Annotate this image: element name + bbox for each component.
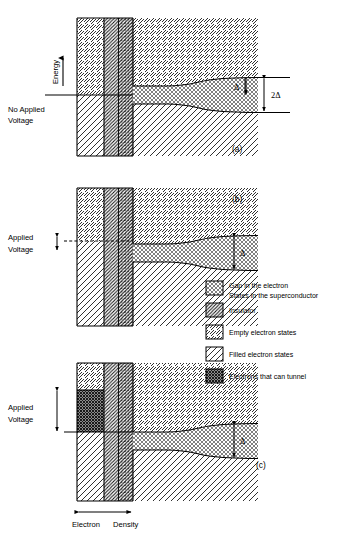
panel-b-left-label-line2: Voltage bbox=[8, 245, 33, 254]
panel-c-left-label-line1: Applied bbox=[8, 403, 33, 412]
legend-swatch-gap-in-electron-states bbox=[206, 281, 223, 295]
panel-b-insulator-left bbox=[104, 188, 119, 326]
panel-a-left-empty-states bbox=[77, 18, 104, 95]
panel-b-left-label-line1: Applied bbox=[8, 233, 33, 242]
panel-a-left-label-line1: No Applied bbox=[8, 105, 45, 114]
panel-b-left-empty-states bbox=[77, 188, 104, 241]
legend-label-gap-line2: States in the superconductor bbox=[229, 292, 319, 300]
tunnel-junction-diagram: Energy No Applied Voltage Δ 2Δ (a) bbox=[0, 0, 355, 536]
legend-swatch-filled-electron-states bbox=[206, 347, 223, 361]
panel-b-tag: (b) bbox=[232, 194, 242, 204]
legend-label-empty-electron-states: Empty electron states bbox=[229, 329, 297, 337]
energy-axis-label: Energy bbox=[51, 60, 60, 84]
panel-c-left-label-line2: Voltage bbox=[8, 415, 33, 424]
panel-a-insulator-right bbox=[119, 18, 134, 156]
electron-density-label-left: Electron bbox=[72, 520, 100, 529]
panel-a-two-delta-label: 2Δ bbox=[271, 91, 281, 100]
panel-b-left-filled-states bbox=[77, 241, 104, 326]
panel-a-insulator-left bbox=[104, 18, 119, 156]
legend-swatch-empty-electron-states bbox=[206, 325, 223, 339]
panel-a-tag: (a) bbox=[232, 144, 242, 154]
panel-a-left-filled-states bbox=[77, 95, 104, 156]
legend-swatch-insulator bbox=[206, 303, 223, 317]
panel-b-insulator-right bbox=[119, 188, 134, 326]
panel-c-tag: (c) bbox=[256, 460, 266, 470]
panel-a-delta-label: Δ bbox=[234, 83, 240, 92]
figure-canvas: Energy No Applied Voltage Δ 2Δ (a) bbox=[0, 0, 355, 536]
panel-a-right-empty-states bbox=[133, 18, 258, 86]
legend-label-insulator: Insulator bbox=[229, 307, 257, 314]
legend-label-electrons-that-can-tunnel: Electrons that can tunnel bbox=[229, 373, 306, 380]
panel-c-left-empty-states bbox=[77, 363, 104, 390]
panel-b-delta-label: Δ bbox=[240, 249, 246, 258]
panel-c-tunneling-electrons bbox=[77, 390, 104, 432]
legend-label-filled-electron-states: Filled electron states bbox=[229, 351, 294, 358]
legend-swatch-electrons-that-can-tunnel bbox=[206, 369, 223, 383]
panel-c-left-filled-states bbox=[77, 432, 104, 501]
electron-density-label-right: Density bbox=[113, 520, 139, 529]
legend-label-gap-line1: Gap in the electron bbox=[229, 282, 288, 290]
panel-a-left-label-line2: Voltage bbox=[8, 116, 33, 125]
panel-c-delta-label: Δ bbox=[240, 437, 246, 446]
